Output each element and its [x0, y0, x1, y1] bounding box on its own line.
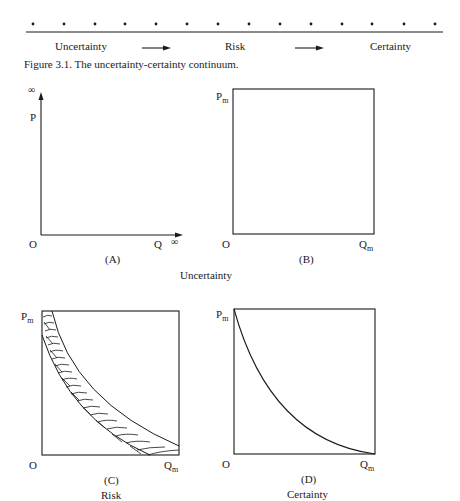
panel-d-label: (D): [301, 473, 316, 485]
panel-b-qm-label: Qm: [359, 238, 373, 250]
continuum-label-risk: Risk: [225, 40, 245, 52]
panel-a-x-label: Q: [154, 238, 162, 250]
panel-d-pm-label: Pm: [216, 308, 228, 320]
panel-a-y-label: P: [30, 111, 36, 123]
panel-d-origin: O: [222, 458, 230, 470]
panel-a-y-infinity: ∞: [28, 84, 35, 95]
group-label-risk: Risk: [101, 489, 121, 501]
panel-b-pm-label: Pm: [216, 90, 228, 102]
panel-d-plot: [234, 309, 375, 454]
panel-c-qm-label: Qm: [164, 459, 178, 471]
panel-a-x-infinity: ∞: [171, 236, 178, 247]
right-arrow-icon: [142, 46, 171, 51]
panel-b-box: [233, 89, 374, 234]
continuum-label-uncertainty: Uncertainty: [55, 40, 107, 52]
panel-a-origin: O: [29, 238, 37, 250]
continuum-dots: [32, 23, 437, 26]
panel-d-qm-label: Qm: [360, 458, 374, 470]
panel-b-origin: O: [222, 238, 230, 250]
continuum-label-certainty: Certainty: [370, 40, 411, 52]
figure-canvas: [0, 0, 460, 501]
group-label-certainty: Certainty: [287, 488, 328, 500]
panel-a-label: (A): [105, 253, 120, 265]
panel-c-label: (C): [104, 474, 119, 486]
panel-b-label: (B): [299, 253, 314, 265]
panel-a-axes: [39, 92, 184, 238]
panel-c-pm-label: Pm: [21, 310, 33, 322]
group-label-uncertainty: Uncertainty: [180, 269, 232, 281]
right-arrow-icon: [295, 46, 324, 51]
figure-caption: Figure 3.1. The uncertainty-certainty co…: [24, 58, 239, 70]
panel-c-origin: O: [29, 459, 37, 471]
panel-c-plot: [42, 311, 179, 455]
